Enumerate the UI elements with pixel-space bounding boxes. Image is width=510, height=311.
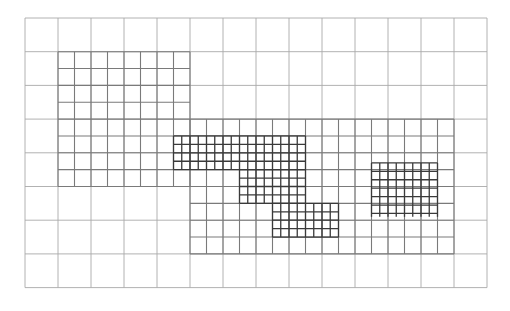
grid-canvas [0,0,510,311]
background [0,0,510,311]
